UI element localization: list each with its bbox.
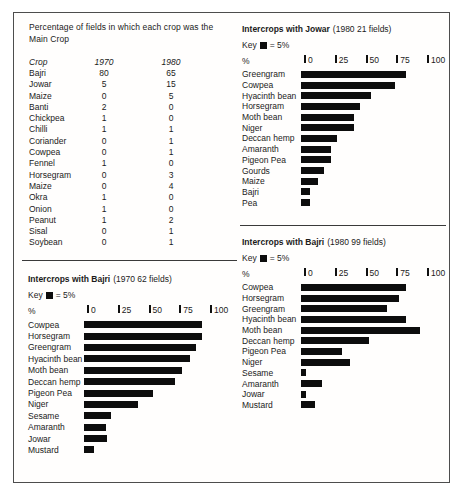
- value-1970-cell: 0: [87, 136, 121, 146]
- bar-track: [301, 327, 448, 334]
- bar-row: Hyacinth bean: [242, 314, 448, 325]
- bar-track: [301, 71, 448, 78]
- axis-tick-label: 50: [370, 268, 379, 278]
- category-label: Horsegram: [242, 101, 301, 111]
- bar: [84, 378, 175, 385]
- bar: [84, 367, 182, 374]
- table-row: Soybean01: [29, 237, 221, 248]
- axis-tick-label: 25: [122, 305, 131, 315]
- crop-name-cell: Cowpea: [29, 147, 87, 157]
- crop-name-cell: Peanut: [29, 215, 87, 225]
- bar-row: Sesame: [28, 410, 236, 421]
- axis-tick-mark: [304, 268, 306, 276]
- table-row: Sisal01: [29, 225, 221, 236]
- bar-track: [301, 124, 448, 131]
- crop-name-cell: Bajri: [29, 68, 87, 78]
- category-label: Bajri: [242, 187, 301, 197]
- table-body: Bajri8065Jowar515Maize05Banti20Chickpea1…: [29, 67, 221, 248]
- table-row: Coriander01: [29, 135, 221, 146]
- axis-unit-label: %: [28, 306, 36, 316]
- bar-track: [84, 333, 236, 340]
- category-label: Gourds: [242, 166, 301, 176]
- axis-unit-label: %: [242, 269, 250, 279]
- value-1970-cell: 1: [87, 192, 121, 202]
- value-1980-cell: 15: [154, 79, 188, 89]
- table-row: Peanut12: [29, 214, 221, 225]
- value-1970-cell: 0: [87, 147, 121, 157]
- bar-row: Cowpea: [242, 80, 448, 91]
- category-label: Amaranth: [28, 422, 84, 432]
- chart-title: Intercrops with Bajri(1970 62 fields): [28, 274, 236, 284]
- table-row: Banti20: [29, 101, 221, 112]
- bar-track: [301, 199, 448, 206]
- value-1980-cell: 2: [154, 215, 188, 225]
- chart-intercrops-jowar-1980: Intercrops with Jowar(1980 21 fields) Ke…: [242, 24, 448, 208]
- chart-axis: % 0255075100: [242, 55, 448, 66]
- crop-name-cell: Horsegram: [29, 170, 87, 180]
- bar: [301, 316, 406, 323]
- bar: [301, 167, 324, 174]
- bar: [301, 146, 331, 153]
- crop-name-cell: Maize: [29, 181, 87, 191]
- bar: [84, 333, 202, 340]
- category-label: Cowpea: [242, 80, 301, 90]
- category-label: Hyacinth bean: [28, 354, 84, 364]
- bar: [301, 188, 310, 195]
- axis-tick-label: 75: [183, 305, 192, 315]
- bar-track: [301, 178, 448, 185]
- crop-name-cell: Chilli: [29, 124, 87, 134]
- bar-track: [301, 380, 448, 387]
- category-label: Horsegram: [28, 331, 84, 341]
- key-value: = 5%: [270, 40, 290, 50]
- axis-tick-mark: [179, 305, 181, 313]
- value-1970-cell: 1: [87, 204, 121, 214]
- category-label: Hyacinth bean: [242, 91, 301, 101]
- bar-track: [301, 135, 448, 142]
- bar: [301, 380, 322, 387]
- category-label: Moth bean: [242, 112, 301, 122]
- category-label: Amaranth: [242, 144, 301, 154]
- main-crop-table: Crop 1970 1980 Bajri8065Jowar515Maize05B…: [29, 56, 221, 248]
- bar: [301, 391, 306, 398]
- category-label: Greengram: [242, 69, 301, 79]
- axis-tick-label: 75: [400, 268, 409, 278]
- axis-tick-mark: [366, 55, 368, 63]
- category-label: Pea: [242, 198, 301, 208]
- bar-row: Horsegram: [242, 101, 448, 112]
- table-row: Horsegram03: [29, 169, 221, 180]
- bar-track: [84, 435, 236, 442]
- bar-track: [301, 391, 448, 398]
- value-1970-cell: 1: [87, 215, 121, 225]
- value-1970-cell: 0: [87, 91, 121, 101]
- table-heading-line2: Main Crop: [29, 34, 229, 46]
- bar: [301, 199, 310, 206]
- bar-track: [301, 82, 448, 89]
- bar: [301, 114, 354, 121]
- value-1970-cell: 0: [87, 181, 121, 191]
- bar-row: Moth bean: [28, 365, 236, 376]
- chart-bars: CowpeaHorsegramGreengramHyacinth beanMot…: [28, 319, 236, 456]
- bar-row: Amaranth: [242, 378, 448, 389]
- chart-title: Intercrops with Jowar(1980 21 fields): [242, 24, 448, 34]
- value-1970-cell: 2: [87, 102, 121, 112]
- category-label: Jowar: [242, 389, 301, 399]
- axis-tick-label: 0: [91, 305, 96, 315]
- bar-row: Greengram: [242, 69, 448, 80]
- chart-bars: GreengramCowpeaHyacinth beanHorsegramMot…: [242, 69, 448, 208]
- crop-name-cell: Jowar: [29, 79, 87, 89]
- bar-row: Moth bean: [242, 112, 448, 123]
- bar-row: Deccan hemp: [242, 335, 448, 346]
- chart-title-text: Intercrops with Jowar: [242, 24, 330, 34]
- category-label: Horsegram: [242, 293, 301, 303]
- key-value: = 5%: [270, 253, 290, 263]
- bar-track: [84, 390, 236, 397]
- category-label: Cowpea: [242, 282, 301, 292]
- category-label: Jowar: [28, 434, 84, 444]
- table-row: Fennel10: [29, 158, 221, 169]
- key-label: Key: [28, 290, 43, 300]
- category-label: Moth bean: [28, 365, 84, 375]
- table-row: Cowpea01: [29, 146, 221, 157]
- category-label: Niger: [242, 357, 301, 367]
- bar-row: Sesame: [242, 368, 448, 379]
- value-1970-cell: 80: [87, 68, 121, 78]
